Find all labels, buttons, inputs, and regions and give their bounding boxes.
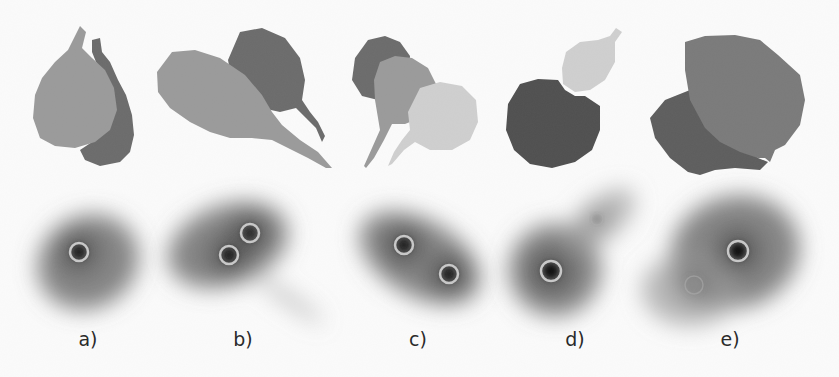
figure-canvas [0, 0, 839, 377]
panel-label-d: d) [545, 328, 605, 350]
panel-label-c: c) [388, 328, 448, 350]
scan-grain-overlay [0, 0, 839, 377]
panel-label-a: a) [58, 328, 118, 350]
panel-label-e: e) [700, 328, 760, 350]
panel-label-b: b) [213, 328, 273, 350]
